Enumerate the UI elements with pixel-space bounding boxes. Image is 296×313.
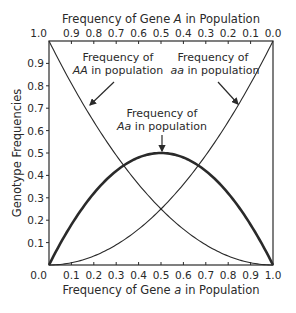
x-tick-label: 0.9 <box>242 269 259 281</box>
x-tick-label: 0.5 <box>153 269 170 281</box>
x-tick-label: 0.0 <box>30 269 47 281</box>
genotype-frequency-chart: 0.01.00.10.90.20.80.30.70.40.60.50.50.60… <box>0 0 296 313</box>
x-tick-label: 1.0 <box>265 269 282 281</box>
annotation-heterozygous: Frequency of Aa in population <box>116 107 207 133</box>
bottom-x-axis-title: Frequency of Gene a in Population <box>62 283 259 297</box>
svg-text:aa in population: aa in population <box>170 64 259 77</box>
top-x-tick-label: 0.0 <box>265 27 282 39</box>
y-tick-label: 0.7 <box>27 102 44 114</box>
x-tick-label: 0.4 <box>130 269 147 281</box>
svg-text:Frequency of: Frequency of <box>83 51 155 64</box>
top-x-tick-label: 1.0 <box>30 27 47 39</box>
top-x-tick-label: 0.3 <box>197 27 214 39</box>
x-tick-label: 0.1 <box>63 269 80 281</box>
top-x-tick-label: 0.4 <box>175 27 192 39</box>
x-tick-label: 0.8 <box>220 269 237 281</box>
svg-text:Frequency of: Frequency of <box>178 51 250 64</box>
top-x-tick-label: 0.2 <box>220 27 237 39</box>
x-tick-label: 0.7 <box>197 269 214 281</box>
x-tick-label: 0.3 <box>108 269 125 281</box>
top-x-tick-label: 0.7 <box>108 27 125 39</box>
top-x-tick-label: 0.1 <box>242 27 259 39</box>
y-tick-label: 0.6 <box>27 125 44 137</box>
svg-text:Frequency of: Frequency of <box>127 107 199 120</box>
y-tick-label: 0.4 <box>27 169 44 181</box>
x-tick-label: 0.2 <box>85 269 102 281</box>
annotation-aa-homozygous-dominant: Frequency of AA in population <box>72 51 164 77</box>
top-x-tick-label: 0.9 <box>63 27 80 39</box>
y-axis-title: Genotype Frequencies <box>10 89 24 218</box>
arrow-icon-aa-recessive <box>218 82 238 104</box>
y-tick-label: 0.1 <box>27 237 44 249</box>
y-tick-label: 0.8 <box>27 80 44 92</box>
top-x-tick-label: 0.6 <box>130 27 147 39</box>
annotation-aa-homozygous-recessive: Frequency of aa in population <box>170 51 259 77</box>
y-tick-label: 0.3 <box>27 192 44 204</box>
top-x-tick-label: 0.5 <box>153 27 170 39</box>
y-tick-label: 0.9 <box>27 57 44 69</box>
y-tick-label: 0.2 <box>27 214 44 226</box>
top-x-tick-label: 0.8 <box>85 27 102 39</box>
top-x-axis-title: Frequency of Gene A in Population <box>62 12 260 26</box>
x-tick-label: 0.6 <box>175 269 192 281</box>
svg-text:Aa in population: Aa in population <box>116 120 207 133</box>
arrow-icon-aa-dominant <box>90 82 114 105</box>
y-tick-label: 0.5 <box>27 147 44 159</box>
svg-text:AA in population: AA in population <box>72 64 164 77</box>
